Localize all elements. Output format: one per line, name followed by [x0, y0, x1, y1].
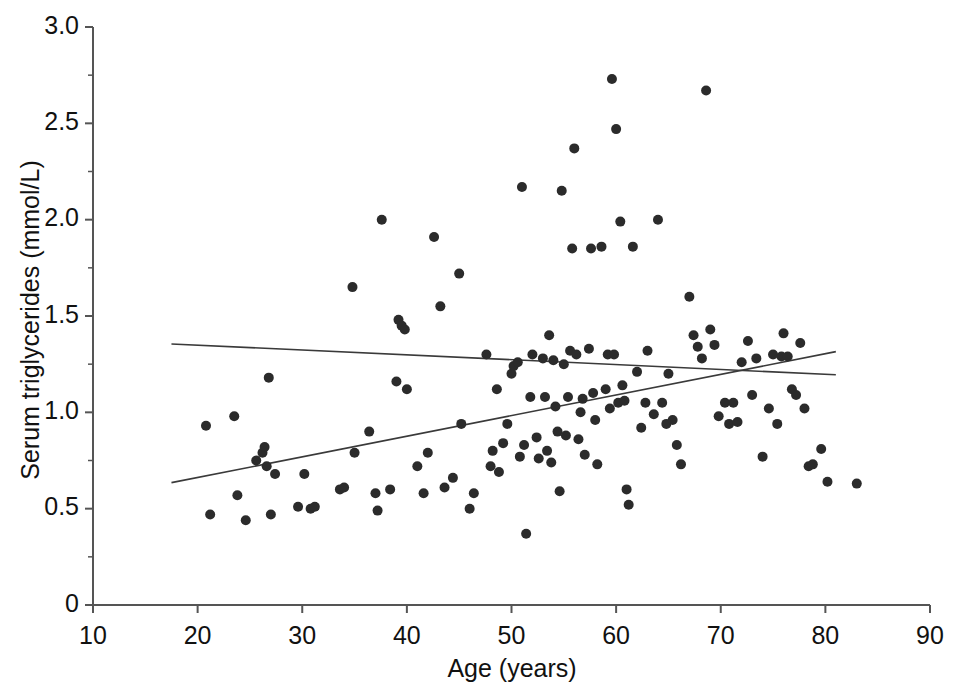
data-point — [542, 446, 552, 456]
data-point — [569, 143, 579, 153]
data-point — [270, 469, 280, 479]
data-point — [563, 392, 573, 402]
data-point — [498, 438, 508, 448]
data-point — [469, 488, 479, 498]
data-point — [588, 388, 598, 398]
data-point — [293, 502, 303, 512]
data-point — [632, 367, 642, 377]
y-axis-title: Serum triglycerides (mmol/L) — [16, 160, 44, 480]
data-point — [486, 461, 496, 471]
plot-canvas: 00.51.01.52.02.53.0 102030405060708090 A… — [0, 0, 954, 698]
data-point — [264, 373, 274, 383]
data-point — [370, 488, 380, 498]
data-point — [601, 384, 611, 394]
data-point — [697, 353, 707, 363]
y-tick-label: 0 — [65, 589, 79, 617]
men-regression-line — [171, 344, 835, 375]
data-point — [709, 340, 719, 350]
data-point — [764, 403, 774, 413]
data-point — [701, 86, 711, 96]
data-point — [714, 411, 724, 421]
data-point — [538, 353, 548, 363]
data-point — [350, 448, 360, 458]
data-point — [400, 324, 410, 334]
data-point — [768, 350, 778, 360]
data-point — [201, 421, 211, 431]
data-point — [519, 440, 529, 450]
data-point — [609, 350, 619, 360]
data-point — [590, 415, 600, 425]
data-point — [532, 432, 542, 442]
x-tick-label: 90 — [916, 621, 944, 649]
data-point — [676, 459, 686, 469]
data-point — [584, 344, 594, 354]
data-point — [347, 282, 357, 292]
data-point — [586, 244, 596, 254]
data-point — [737, 357, 747, 367]
data-point — [779, 328, 789, 338]
data-point — [758, 452, 768, 462]
data-point — [672, 440, 682, 450]
data-point — [502, 419, 512, 429]
data-point — [657, 398, 667, 408]
data-point — [732, 417, 742, 427]
data-point — [555, 486, 565, 496]
data-point — [624, 500, 634, 510]
data-point — [521, 529, 531, 539]
data-point — [251, 456, 261, 466]
data-point — [607, 74, 617, 84]
data-point — [546, 457, 556, 467]
data-point — [747, 390, 757, 400]
data-point — [783, 351, 793, 361]
data-point — [663, 369, 673, 379]
data-point — [693, 342, 703, 352]
data-point — [429, 232, 439, 242]
data-point — [373, 506, 383, 516]
data-point — [636, 423, 646, 433]
x-tick-label: 30 — [288, 621, 316, 649]
y-tick-label: 0.5 — [44, 492, 79, 520]
x-tick-label: 60 — [602, 621, 630, 649]
data-point — [611, 124, 621, 134]
data-point — [339, 482, 349, 492]
data-point — [628, 242, 638, 252]
data-point — [559, 359, 569, 369]
data-point — [622, 484, 632, 494]
data-point — [550, 402, 560, 412]
x-axis-title: Age (years) — [447, 654, 576, 682]
data-point — [643, 346, 653, 356]
data-point — [527, 350, 537, 360]
data-point — [456, 419, 466, 429]
data-point — [751, 353, 761, 363]
data-point — [513, 357, 523, 367]
data-point — [743, 336, 753, 346]
data-point — [448, 473, 458, 483]
data-point — [573, 434, 583, 444]
data-point — [561, 430, 571, 440]
data-point — [578, 394, 588, 404]
x-tick-label: 50 — [498, 621, 526, 649]
data-point — [402, 384, 412, 394]
data-point — [229, 411, 239, 421]
scatter-chart-figure: 00.51.01.52.02.53.0 102030405060708090 A… — [0, 0, 954, 698]
x-tick-label: 80 — [811, 621, 839, 649]
data-point — [481, 350, 491, 360]
data-point — [391, 377, 401, 387]
x-axis-tick-labels: 102030405060708090 — [79, 621, 944, 649]
data-point — [488, 446, 498, 456]
data-point — [592, 459, 602, 469]
data-point — [576, 407, 586, 417]
y-tick-label: 1.0 — [44, 396, 79, 424]
data-point — [822, 477, 832, 487]
data-point — [617, 380, 627, 390]
data-point — [540, 392, 550, 402]
data-point — [653, 215, 663, 225]
data-point — [724, 419, 734, 429]
data-point — [640, 398, 650, 408]
y-axis-tick-labels: 00.51.01.52.02.53.0 — [44, 11, 79, 617]
data-point — [544, 330, 554, 340]
x-tick-label: 20 — [184, 621, 212, 649]
x-tick-label: 10 — [79, 621, 107, 649]
regression-lines — [171, 344, 835, 483]
data-point — [205, 509, 215, 519]
